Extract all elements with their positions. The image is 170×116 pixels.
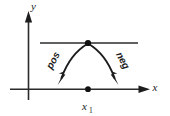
figure-canvas: y x x 1 pos neg [0, 0, 170, 116]
parabola-curve [62, 44, 115, 79]
x1-label-subscript: 1 [89, 106, 93, 115]
x-axis-arrowhead [139, 86, 151, 93]
neg-slope-label: neg [114, 50, 132, 71]
math-figure: y x x 1 pos neg [0, 0, 170, 116]
x1-point [85, 86, 91, 92]
y-axis-label: y [30, 0, 36, 12]
x-axis [10, 86, 150, 93]
x1-label-base: x [81, 100, 87, 112]
left-branch-arrowhead [57, 71, 66, 86]
pos-slope-label: pos [43, 50, 62, 72]
x1-label: x 1 [81, 100, 93, 115]
y-axis-arrowhead [25, 11, 32, 23]
x-axis-label: x [152, 81, 158, 93]
vertex-point [85, 40, 91, 46]
y-axis [25, 11, 32, 100]
